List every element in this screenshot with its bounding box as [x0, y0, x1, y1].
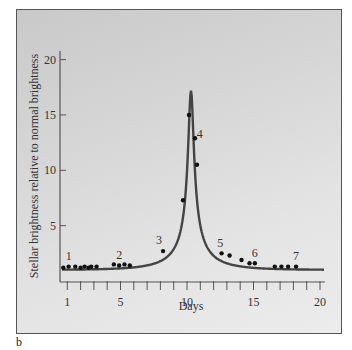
data-point: [78, 266, 82, 270]
data-point: [195, 163, 199, 167]
data-point: [89, 264, 93, 268]
x-tick-label: 1: [64, 295, 70, 309]
data-point: [187, 113, 191, 117]
data-point: [161, 249, 165, 253]
point-label: 3: [156, 233, 162, 247]
point-label: 5: [217, 236, 223, 250]
y-tick-label: 5: [50, 219, 56, 233]
data-point: [61, 266, 65, 270]
data-point: [117, 263, 121, 267]
data-point: [253, 261, 257, 265]
data-point: [66, 264, 70, 268]
data-point: [94, 264, 98, 268]
data-point: [279, 264, 283, 268]
y-axis-label: Stellar brightness relative to normal br…: [27, 54, 41, 279]
chart-panel: 151015205101520 1234567 Days Stellar bri…: [16, 9, 342, 334]
point-label: 6: [252, 246, 258, 260]
point-label: 4: [197, 127, 203, 141]
data-point: [247, 261, 251, 265]
x-tick-label: 15: [248, 295, 260, 309]
data-point: [181, 198, 185, 202]
point-label: 1: [66, 249, 72, 263]
point-label: 2: [116, 248, 122, 262]
data-point: [273, 264, 277, 268]
panel-label: b: [16, 335, 22, 350]
y-tick-label: 20: [44, 53, 56, 67]
point-labels: 1234567: [66, 127, 299, 263]
data-point: [219, 251, 223, 255]
x-tick-label: 20: [314, 295, 326, 309]
data-point: [294, 264, 298, 268]
data-point: [128, 263, 132, 267]
y-tick-label: 10: [44, 163, 56, 177]
data-point: [227, 253, 231, 257]
data-point: [112, 262, 116, 266]
data-point: [286, 264, 290, 268]
data-point: [73, 264, 77, 268]
data-points: [61, 113, 298, 270]
x-tick-label: 5: [118, 295, 124, 309]
data-point: [82, 264, 86, 268]
point-label: 7: [293, 249, 299, 263]
y-tick-label: 15: [44, 108, 56, 122]
data-point: [122, 262, 126, 266]
data-point: [239, 258, 243, 262]
light-curve-chart: 151015205101520 1234567 Days Stellar bri…: [17, 10, 343, 335]
x-axis-label: Days: [179, 299, 204, 313]
model-curve: [62, 91, 324, 270]
